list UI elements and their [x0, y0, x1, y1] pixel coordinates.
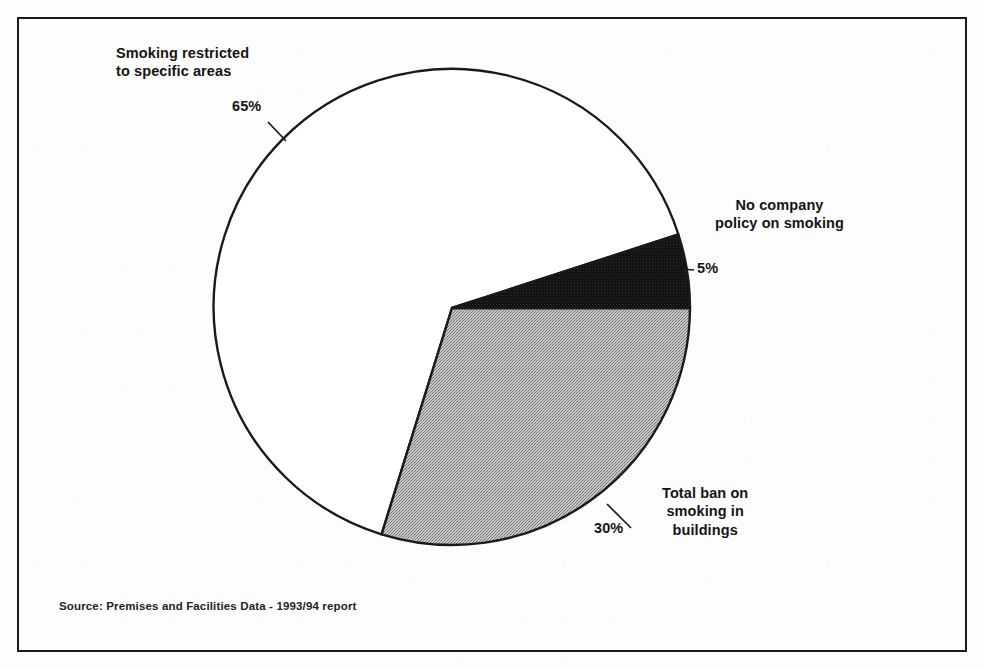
- slice-value-smoking-restricted: 65%: [232, 98, 261, 114]
- slice-label-no-company-policy: No companypolicy on smoking: [715, 196, 844, 233]
- slice-label-line1: No company: [735, 197, 823, 213]
- slice-label-line2: to specific areas: [116, 63, 231, 79]
- slice-label-line2: policy on smoking: [715, 215, 844, 231]
- slice-value-no-company-policy: 5%: [697, 260, 718, 276]
- pie-chart-graphic: [0, 0, 986, 669]
- slice-label-smoking-restricted: Smoking restrictedto specific areas: [116, 44, 249, 81]
- leader-line-smoking-restricted: [268, 122, 286, 141]
- slice-label-line3: buildings: [672, 522, 737, 538]
- slice-label-line1: Total ban on: [662, 485, 748, 501]
- slice-label-total-ban: Total ban onsmoking inbuildings: [662, 484, 748, 539]
- slice-label-line2: smoking in: [666, 503, 744, 519]
- source-note: Source: Premises and Facilities Data - 1…: [59, 600, 357, 612]
- chart-page: Smoking restrictedto specific areas 65% …: [0, 0, 986, 669]
- slice-label-line1: Smoking restricted: [116, 45, 249, 61]
- slice-value-total-ban: 30%: [594, 520, 623, 536]
